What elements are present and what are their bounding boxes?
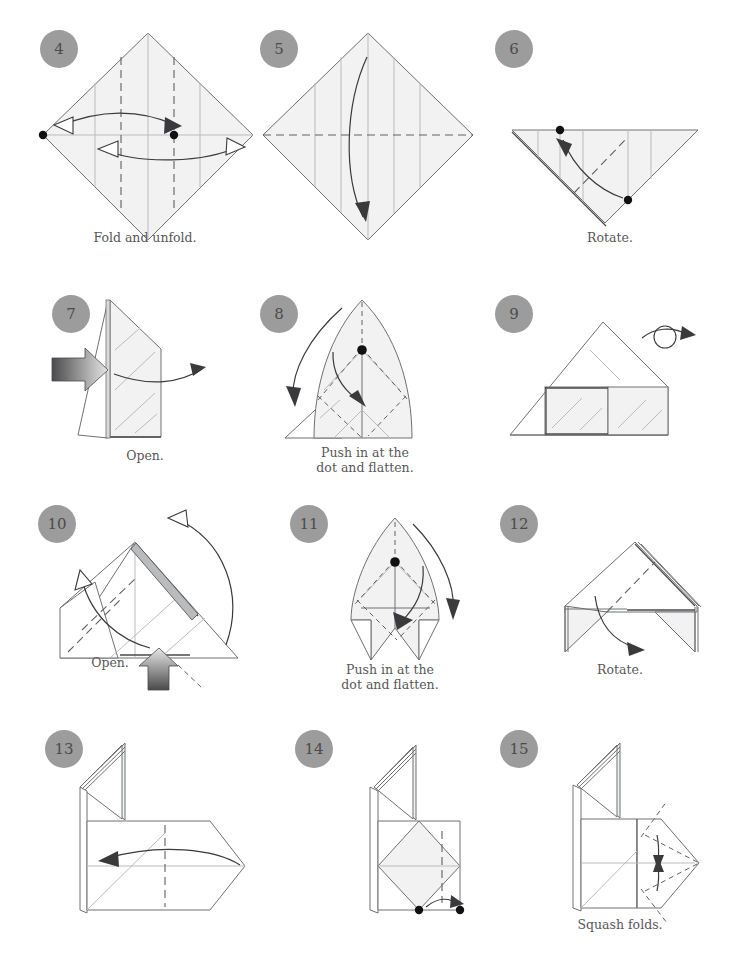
step-number-badge-10: 10 xyxy=(38,505,76,543)
step-8-diagram: 8 Push in at the dot and flatten. xyxy=(250,290,480,480)
step-4-diagram: 4 Fold and unfold. xyxy=(30,25,260,255)
step-10-diagram: 10 Open. xyxy=(20,500,270,700)
step-12-caption: Rotate. xyxy=(520,662,720,677)
step-number-badge-15: 15 xyxy=(500,730,538,768)
step-12-diagram: 12 Rotate. xyxy=(495,500,735,700)
step-11-caption: Push in at the dot and flatten. xyxy=(290,662,490,692)
step-11-diagram: 11 Push in at the dot and flatten. xyxy=(285,500,505,700)
step-number-badge-6: 6 xyxy=(495,30,533,68)
step-7-caption: Open. xyxy=(45,448,245,463)
step-number-badge-5: 5 xyxy=(260,30,298,68)
step-8-caption: Push in at the dot and flatten. xyxy=(265,445,465,475)
step-13-diagram: 13 xyxy=(30,725,270,935)
step-6-diagram: 6 Rotate. xyxy=(490,25,730,255)
step-10-caption: Open. xyxy=(10,655,210,670)
step-number-badge-13: 13 xyxy=(45,730,83,768)
step-6-caption: Rotate. xyxy=(510,230,710,245)
step-15-diagram: 15 Squash folds. xyxy=(495,725,735,955)
step-9-diagram: 9 xyxy=(490,290,730,480)
step-7-diagram: 7 Open. xyxy=(30,290,260,480)
origami-instruction-sheet: 4 Fold and unfold. 5 xyxy=(0,0,737,974)
step-number-badge-11: 11 xyxy=(290,505,328,543)
step-number-badge-14: 14 xyxy=(295,730,333,768)
step-15-caption: Squash folds. xyxy=(520,917,720,932)
step-number-badge-4: 4 xyxy=(40,30,78,68)
step-number-badge-7: 7 xyxy=(52,295,90,333)
step-number-badge-9: 9 xyxy=(495,295,533,333)
step-5-diagram: 5 xyxy=(250,25,480,255)
step-number-badge-12: 12 xyxy=(500,505,538,543)
step-14-diagram: 14 xyxy=(290,725,510,940)
step-4-caption: Fold and unfold. xyxy=(45,230,245,245)
step-number-badge-8: 8 xyxy=(260,295,298,333)
